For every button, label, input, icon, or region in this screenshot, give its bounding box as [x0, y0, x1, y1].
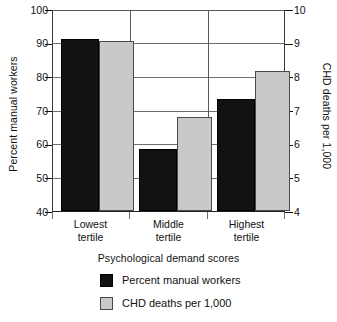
y-axis-right-tick-6: 6 — [294, 139, 324, 150]
y-axis-right-tick-8: 8 — [294, 72, 324, 83]
category-label-lowest-line1: Lowest — [52, 218, 129, 231]
y-axis-right-tick-7: 7 — [294, 106, 324, 117]
bar-highest-percent-manual-workers[interactable] — [217, 99, 255, 211]
y-axis-right-tick-10: 10 — [294, 5, 324, 16]
category-label-highest-tertile: Highest tertile — [208, 218, 285, 244]
legend-swatch-light-icon — [100, 297, 113, 310]
bar-highest-chd-deaths[interactable] — [255, 71, 290, 211]
y-axis-right-tick-4: 4 — [294, 207, 324, 218]
bar-lowest-chd-deaths[interactable] — [99, 41, 134, 211]
bar-chart-figure: Percent manual workers CHD deaths per 1,… — [0, 0, 337, 322]
bar-middle-chd-deaths[interactable] — [177, 117, 212, 211]
y-axis-left-tick-60: 60 — [8, 139, 48, 150]
bar-middle-percent-manual-workers[interactable] — [139, 149, 177, 211]
chart-legend: Percent manual workers CHD deaths per 1,… — [0, 271, 337, 317]
bar-group-middle-tertile — [131, 11, 208, 211]
bar-group-highest-tertile — [209, 11, 286, 211]
legend-swatch-dark-icon — [100, 274, 113, 287]
x-axis-title: Psychological demand scores — [52, 252, 285, 264]
legend-label-chd-deaths: CHD deaths per 1,000 — [122, 297, 231, 310]
tick-mark-right-9 — [285, 44, 293, 45]
y-axis-left-tick-40: 40 — [8, 207, 48, 218]
y-axis-left-tick-100: 100 — [8, 5, 48, 16]
category-label-highest-line2: tertile — [208, 231, 285, 244]
category-label-lowest-line2: tertile — [52, 231, 129, 244]
y-axis-left-tick-50: 50 — [8, 173, 48, 184]
category-label-highest-line1: Highest — [208, 218, 285, 231]
tick-mark-right-10 — [285, 10, 293, 11]
category-label-middle-line2: tertile — [130, 231, 207, 244]
legend-label-percent-manual-workers: Percent manual workers — [122, 274, 241, 287]
plot-area — [52, 10, 285, 212]
category-label-middle-tertile: Middle tertile — [130, 218, 207, 244]
y-axis-right-tick-9: 9 — [294, 38, 324, 49]
category-label-lowest-tertile: Lowest tertile — [52, 218, 129, 244]
category-label-middle-line1: Middle — [130, 218, 207, 231]
y-axis-left-tick-70: 70 — [8, 106, 48, 117]
y-axis-left-tick-80: 80 — [8, 72, 48, 83]
legend-item-chd-deaths[interactable]: CHD deaths per 1,000 — [0, 294, 337, 317]
tick-mark-right-4 — [285, 212, 293, 213]
y-axis-left-tick-90: 90 — [8, 38, 48, 49]
y-axis-right-tick-5: 5 — [294, 173, 324, 184]
bar-lowest-percent-manual-workers[interactable] — [61, 39, 99, 211]
bar-group-lowest-tertile — [53, 11, 130, 211]
legend-item-percent-manual-workers[interactable]: Percent manual workers — [0, 271, 337, 294]
